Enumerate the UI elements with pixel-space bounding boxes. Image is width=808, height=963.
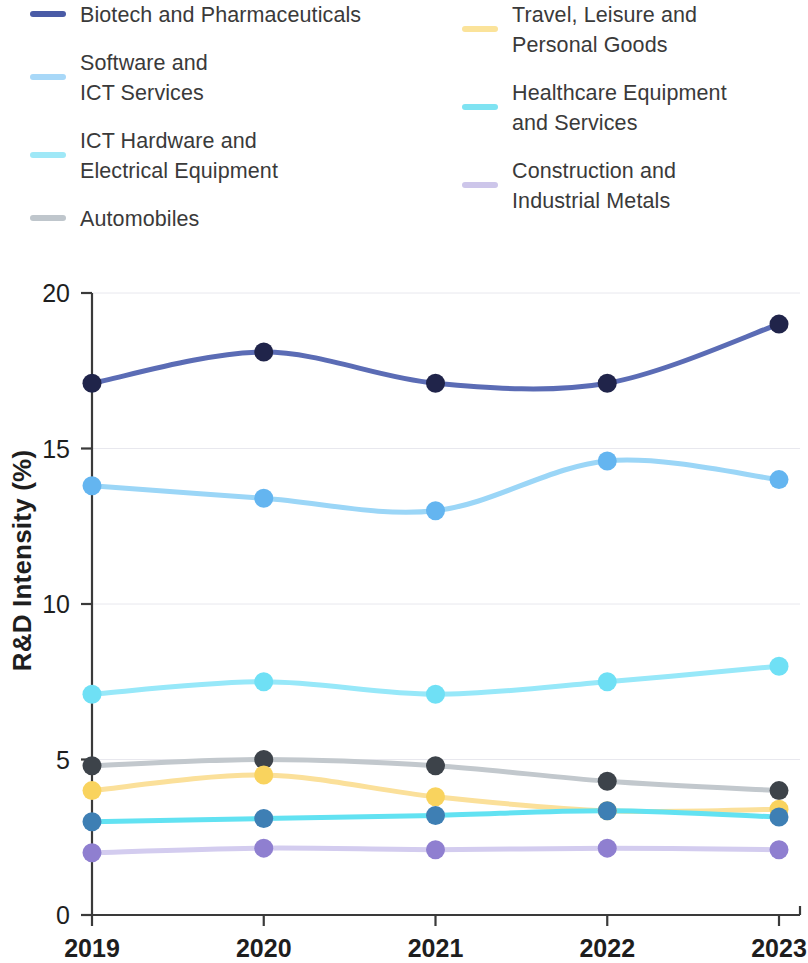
data-point-marker[interactable] — [426, 374, 445, 393]
y-axis-tick-label: 10 — [42, 590, 70, 618]
x-axis-tick-label: 2023 — [751, 934, 807, 962]
data-point-marker[interactable] — [598, 672, 617, 691]
line-chart: R&D Intensity (%) 0510152020192020202120… — [0, 255, 808, 963]
legend-swatch-icon — [30, 11, 66, 17]
data-point-marker[interactable] — [770, 781, 789, 800]
y-axis-tick-label: 5 — [56, 746, 70, 774]
y-axis-tick-label: 0 — [56, 901, 70, 929]
data-point-marker[interactable] — [254, 809, 273, 828]
legend-item-label: Travel, Leisure and Personal Goods — [512, 0, 697, 60]
legend-column-right: Travel, Leisure and Personal Goods Healt… — [462, 0, 808, 234]
legend-item-label: Software and ICT Services — [80, 48, 208, 108]
x-axis-tick-label: 2020 — [236, 934, 292, 962]
data-point-marker[interactable] — [254, 672, 273, 691]
legend-item-label: Automobiles — [80, 204, 199, 234]
data-point-marker[interactable] — [598, 772, 617, 791]
legend-swatch-icon — [30, 74, 66, 80]
data-point-marker[interactable] — [598, 374, 617, 393]
legend-column-left: Biotech and Pharmaceuticals Software and… — [30, 0, 410, 252]
data-point-marker[interactable] — [83, 756, 102, 775]
legend-swatch-icon — [462, 104, 498, 110]
data-point-marker[interactable] — [770, 470, 789, 489]
data-point-marker[interactable] — [426, 501, 445, 520]
legend-item-automobiles[interactable]: Automobiles — [30, 204, 410, 234]
legend-item-label: Construction and Industrial Metals — [512, 156, 676, 216]
data-point-marker[interactable] — [83, 685, 102, 704]
x-axis-tick-label: 2019 — [64, 934, 120, 962]
data-point-marker[interactable] — [83, 781, 102, 800]
legend-item-label: Biotech and Pharmaceuticals — [80, 0, 361, 30]
data-point-marker[interactable] — [254, 839, 273, 858]
plot-canvas: 0510152020192020202120222023 — [0, 255, 808, 963]
data-point-marker[interactable] — [83, 374, 102, 393]
data-point-marker[interactable] — [83, 812, 102, 831]
data-point-marker[interactable] — [83, 843, 102, 862]
data-point-marker[interactable] — [83, 476, 102, 495]
legend-swatch-icon — [30, 215, 66, 221]
data-point-marker[interactable] — [254, 766, 273, 785]
y-axis-tick-label: 20 — [42, 279, 70, 307]
data-point-marker[interactable] — [598, 839, 617, 858]
data-point-marker[interactable] — [598, 451, 617, 470]
data-point-marker[interactable] — [426, 840, 445, 859]
x-axis-tick-label: 2021 — [408, 934, 464, 962]
legend-swatch-icon — [30, 152, 66, 158]
legend-item-biotech-and-pharmaceuticals[interactable]: Biotech and Pharmaceuticals — [30, 0, 410, 30]
legend-item-ict-hardware-and-electrical-equipment[interactable]: ICT Hardware and Electrical Equipment — [30, 126, 410, 186]
data-point-marker[interactable] — [426, 756, 445, 775]
y-axis-tick-label: 15 — [42, 435, 70, 463]
data-point-marker[interactable] — [770, 840, 789, 859]
legend-swatch-icon — [462, 182, 498, 188]
data-point-marker[interactable] — [426, 787, 445, 806]
legend-swatch-icon — [462, 26, 498, 32]
data-point-marker[interactable] — [426, 806, 445, 825]
data-point-marker[interactable] — [254, 489, 273, 508]
data-point-marker[interactable] — [254, 343, 273, 362]
legend-item-label: ICT Hardware and Electrical Equipment — [80, 126, 278, 186]
data-point-marker[interactable] — [770, 315, 789, 334]
legend-item-healthcare-equipment-and-services[interactable]: Healthcare Equipment and Services — [462, 78, 808, 138]
chart-legend: Biotech and Pharmaceuticals Software and… — [0, 0, 808, 255]
legend-item-travel-leisure-and-personal-goods[interactable]: Travel, Leisure and Personal Goods — [462, 0, 808, 60]
data-point-marker[interactable] — [770, 657, 789, 676]
x-axis-tick-label: 2022 — [579, 934, 635, 962]
legend-item-construction-and-industrial-metals[interactable]: Construction and Industrial Metals — [462, 156, 808, 216]
data-point-marker[interactable] — [426, 685, 445, 704]
data-point-marker[interactable] — [598, 801, 617, 820]
legend-item-software-and-ict-services[interactable]: Software and ICT Services — [30, 48, 410, 108]
legend-item-label: Healthcare Equipment and Services — [512, 78, 727, 138]
data-point-marker[interactable] — [770, 808, 789, 827]
